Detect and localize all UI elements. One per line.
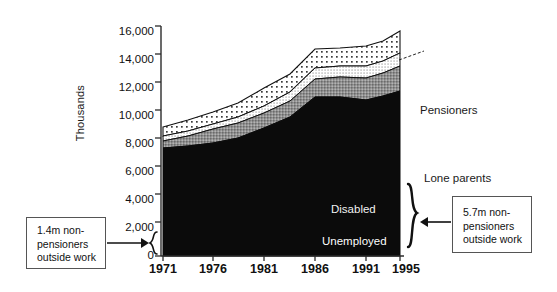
series-label-disabled: Disabled <box>331 203 376 215</box>
left-callout-line-3: outside work <box>37 251 105 265</box>
left-brace <box>150 232 157 254</box>
right-callout-arrow <box>420 217 451 227</box>
right-callout-line-3: outside work <box>463 233 531 247</box>
chart-figure: Thousands 16,000 14,000 12,000 10,000 8,… <box>0 0 557 292</box>
left-callout-arrow <box>107 238 149 248</box>
left-callout-line-2: pensioners <box>37 238 105 252</box>
y-axis-ticks <box>155 26 161 256</box>
left-callout-line-1: 1.4m non- <box>37 224 105 238</box>
right-brace <box>408 184 417 247</box>
right-callout-line-1: 5.7m non- <box>463 206 531 220</box>
right-callout-line-2: pensioners <box>463 220 531 234</box>
left-callout-box: 1.4m non- pensioners outside work <box>26 217 106 269</box>
lone-parents-leader-line <box>399 51 424 60</box>
series-label-lone-parents: Lone parents <box>424 172 491 184</box>
series-label-unemployed: Unemployed <box>322 235 387 247</box>
right-callout-box: 5.7m non- pensioners outside work <box>452 196 532 253</box>
x-axis-ticks <box>163 256 400 261</box>
series-label-pensioners: Pensioners <box>420 104 478 116</box>
